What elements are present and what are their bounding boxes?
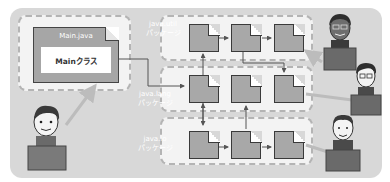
package-label-java-lang: java.lang パッケージ (130, 90, 180, 108)
file-fold-corner (293, 75, 305, 87)
file-icon (189, 75, 219, 103)
file-fold-corner (293, 24, 305, 36)
file-icon (274, 24, 304, 52)
package-name: java.lang (130, 90, 180, 99)
file-fold-corner (208, 131, 220, 143)
file-fold-corner (208, 75, 220, 87)
main-java-file: Main.java Mainクラス (33, 27, 119, 83)
main-class-box: Mainクラス (41, 47, 111, 73)
file-icon (274, 131, 304, 159)
file-fold-corner (250, 131, 262, 143)
package-label-java-io: java.io パッケージ (130, 135, 180, 153)
file-icon (231, 131, 261, 159)
file-icon (189, 131, 219, 159)
package-name: java.util (138, 20, 188, 29)
file-fold-corner (293, 131, 305, 143)
file-icon (189, 24, 219, 52)
package-label-java-util: java.util パッケージ (138, 20, 188, 38)
file-fold-corner (250, 24, 262, 36)
package-name: java.io (130, 135, 180, 144)
package-suffix: パッケージ (138, 29, 188, 38)
developer-suit-icon (324, 110, 362, 172)
developer-glasses-icon (350, 60, 382, 116)
developer-person-icon (26, 100, 68, 172)
file-icon (231, 24, 261, 52)
file-fold-corner (250, 75, 262, 87)
file-icon (274, 75, 304, 103)
file-fold-corner (208, 24, 220, 36)
package-suffix: パッケージ (130, 99, 180, 108)
package-suffix: パッケージ (130, 144, 180, 153)
main-java-filename: Main.java (34, 32, 118, 40)
file-icon (231, 75, 261, 103)
